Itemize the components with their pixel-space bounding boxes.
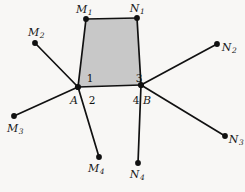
point-label-M1: M1 (76, 4, 92, 15)
point-label-N1: N1 (130, 3, 144, 14)
point-dot-M2 (32, 40, 38, 46)
edge-M1-N1 (86, 18, 137, 19)
point-dot-N3 (222, 133, 228, 139)
edge-B-N3 (141, 85, 225, 136)
vertex-label-A: A (70, 95, 78, 106)
point-dot-N1 (134, 15, 140, 21)
point-dot-M3 (11, 113, 17, 119)
point-label-N2: N2 (222, 42, 236, 53)
edge-A-M3 (14, 87, 78, 116)
point-label-N4: N4 (130, 169, 144, 180)
angle-label-3: 3 (136, 73, 143, 84)
vertex-label-B: B (143, 95, 151, 106)
point-label-M2: M2 (28, 27, 44, 38)
point-dot-M4 (96, 154, 102, 160)
point-dot-N4 (135, 160, 141, 166)
geometry-figure: M1 M2 M3 M4 N1 N2 N3 N4 A B 1 2 3 4 (0, 0, 245, 192)
vertex-dot-A (75, 84, 81, 90)
edge-B-N2 (141, 44, 217, 85)
point-dot-M1 (83, 16, 89, 22)
edge-A-M2 (35, 43, 78, 87)
angle-label-4: 4 (133, 95, 140, 106)
point-label-M3: M3 (7, 123, 23, 134)
point-label-M4: M4 (88, 163, 104, 174)
angle-label-2: 2 (89, 95, 96, 106)
point-dot-N2 (214, 41, 220, 47)
angle-label-1: 1 (87, 73, 94, 84)
point-label-N3: N3 (229, 134, 243, 145)
